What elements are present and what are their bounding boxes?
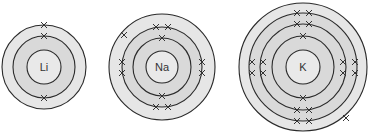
element-symbol: Li [40, 61, 49, 73]
atom-na: Na [109, 14, 215, 120]
electron-cross-icon [343, 115, 349, 121]
element-symbol: Na [155, 61, 170, 73]
atom-k: K [239, 3, 367, 131]
atom-li: Li [2, 22, 86, 109]
atomic-shell-diagram: LiNaK [0, 0, 373, 139]
element-symbol: K [299, 61, 307, 73]
